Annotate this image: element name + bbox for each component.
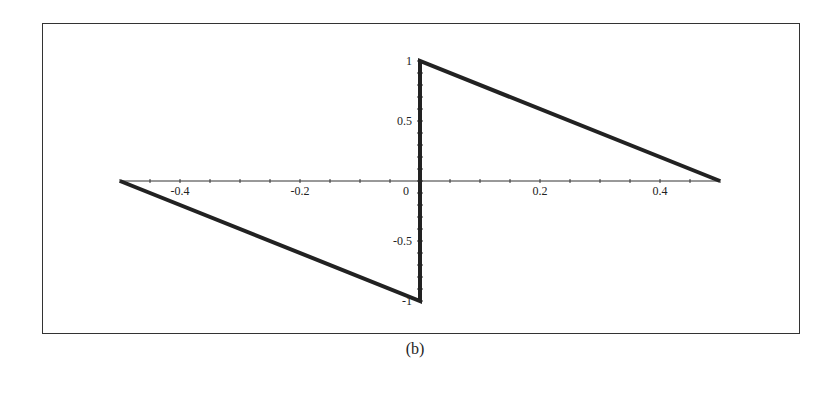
x-tick-label: -0.2 — [291, 184, 310, 198]
y-tick-label: 1 — [406, 54, 412, 68]
x-tick-label: -0.4 — [171, 184, 190, 198]
x-tick-label: 0 — [403, 184, 409, 198]
x-tick-label: 0.4 — [653, 184, 668, 198]
figure-caption: (b) — [0, 340, 830, 358]
y-tick-label: 0.5 — [397, 114, 412, 128]
x-tick-label: 0.2 — [533, 184, 548, 198]
y-tick-label: -0.5 — [393, 234, 412, 248]
